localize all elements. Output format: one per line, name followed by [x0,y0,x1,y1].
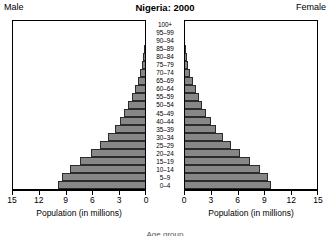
age-group-label: 45–49 [146,109,184,117]
female-bar-90_94 [184,37,185,45]
pyramid-row [13,21,145,29]
female-bar-80_84 [184,53,187,61]
female-bar-35_39 [184,125,216,133]
age-group-label: 70–74 [146,69,184,77]
axis-tick-label: 9 [262,195,267,205]
age-group-label: 85–89 [146,44,184,52]
pyramid-row [185,45,317,53]
female-bar-50_54 [184,101,202,109]
pyramid-row [185,181,317,189]
pyramid-row [185,173,317,181]
female-panel-label: Female [296,2,326,13]
age-group-label: 100+ [146,20,184,28]
female-bar-30_34 [184,133,223,141]
pyramid-row [185,69,317,77]
population-pyramid: 100+95–9990–9485–8980–8475–7970–7465–696… [0,18,330,236]
pyramid-row [185,101,317,109]
pyramid-row [185,77,317,85]
male-bar-25_29 [100,141,146,149]
pyramid-row [13,93,145,101]
female-bar-10_14 [184,165,260,173]
age-group-label: 95–99 [146,28,184,36]
pyramid-row [185,37,317,45]
male-plot-area [12,20,146,190]
pyramid-row [13,53,145,61]
pyramid-row [13,181,145,189]
female-bar-60_64 [184,85,196,93]
age-group-label: 20–24 [146,150,184,158]
female-bar-95_99 [184,29,185,37]
pyramid-row [13,133,145,141]
pyramid-row [13,109,145,117]
female-bar-rows [185,21,317,189]
male-bar-35_39 [115,125,146,133]
female-bar-55_59 [184,93,199,101]
axis-tick-label: 0 [144,195,149,205]
axis-tick-label: 3 [117,195,122,205]
axis-tick-label: 12 [286,195,295,205]
axis-tick-label: 15 [313,195,322,205]
age-group-label: 15–19 [146,158,184,166]
age-group-label: 60–64 [146,85,184,93]
male-axis-title: Population (in millions) [12,208,146,220]
age-group-label: 80–84 [146,52,184,60]
male-bar-55_59 [132,93,146,101]
axis-tick-label: 15 [7,195,16,205]
female-bar-65_69 [184,77,193,85]
age-group-label: 25–29 [146,141,184,149]
pyramid-row [13,165,145,173]
male-bar-5_9 [62,173,146,181]
female-bar-85_89 [184,45,186,53]
female-bar-45_49 [184,109,206,117]
female-axis-title: Population (in millions) [184,208,318,220]
female-bar-20_24 [184,149,240,157]
pyramid-row [185,93,317,101]
pyramid-row [185,21,317,29]
axis-tick-label: 9 [63,195,68,205]
age-group-label: 90–94 [146,36,184,44]
age-group-label: 0–4 [146,182,184,190]
male-axis-line [12,190,146,191]
male-bar-30_34 [108,133,146,141]
pyramid-row [13,85,145,93]
pyramid-row [13,173,145,181]
age-group-label: 65–69 [146,77,184,85]
age-group-label: 30–34 [146,133,184,141]
pyramid-row [13,149,145,157]
male-bar-60_64 [135,85,146,93]
female-tick-labels: 03691215 [184,195,318,206]
pyramid-row [13,117,145,125]
pyramid-row [185,61,317,69]
female-bar-40_44 [184,117,211,125]
pyramid-row [13,125,145,133]
axis-tick-label: 6 [235,195,240,205]
female-bar-70_74 [184,69,190,77]
male-bar-50_54 [128,101,146,109]
pyramid-row [185,157,317,165]
pyramid-row [13,29,145,37]
age-group-label: 35–39 [146,125,184,133]
age-group-label: 40–44 [146,117,184,125]
age-group-label: 50–54 [146,101,184,109]
axis-tick-label: 12 [34,195,43,205]
pyramid-row [13,141,145,149]
male-bar-0_4 [58,181,146,189]
pyramid-row [185,117,317,125]
female-axis-line [184,190,318,191]
pyramid-row [185,109,317,117]
female-bar-100+ [184,21,185,29]
axis-tick-label: 3 [208,195,213,205]
male-bar-40_44 [120,117,146,125]
female-bar-75_79 [184,61,188,69]
age-group-label: 5–9 [146,174,184,182]
female-bar-25_29 [184,141,231,149]
age-group-axis: 100+95–9990–9485–8980–8475–7970–7465–696… [146,20,184,190]
pyramid-row [185,133,317,141]
male-bar-45_49 [124,109,146,117]
male-bar-10_14 [70,165,146,173]
pyramid-row [13,77,145,85]
male-bar-20_24 [91,149,146,157]
chart-title: Nigeria: 2000 [0,2,330,13]
pyramid-row [13,61,145,69]
pyramid-row [185,149,317,157]
